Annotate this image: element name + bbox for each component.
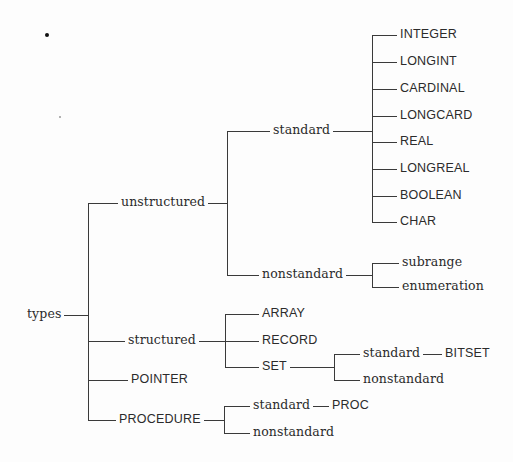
node-procedure-nonstandard: nonstandard — [250, 426, 337, 439]
node-array: ARRAY — [259, 307, 308, 320]
node-proc: PROC — [329, 399, 372, 412]
node-real: REAL — [397, 135, 436, 148]
node-cardinal: CARDINAL — [397, 82, 468, 95]
node-types: types — [24, 308, 64, 321]
node-subrange: subrange — [399, 256, 465, 269]
scan-speck — [45, 33, 49, 37]
node-integer: INTEGER — [397, 28, 460, 41]
node-unstructured: unstructured — [118, 196, 208, 209]
node-enumeration: enumeration — [399, 280, 487, 293]
node-longcard: LONGCARD — [397, 109, 475, 122]
node-boolean: BOOLEAN — [397, 189, 465, 202]
node-set-standard: standard — [360, 347, 423, 360]
node-longreal: LONGREAL — [397, 162, 473, 175]
node-unstructured-nonstandard: nonstandard — [259, 268, 346, 281]
node-structured: structured — [125, 334, 199, 347]
node-procedure: PROCEDURE — [116, 413, 204, 426]
node-pointer: POINTER — [128, 373, 191, 386]
node-procedure-standard: standard — [250, 399, 313, 412]
node-set-nonstandard: nonstandard — [360, 373, 447, 386]
node-char: CHAR — [397, 215, 439, 228]
node-unstructured-standard: standard — [270, 124, 333, 137]
type-hierarchy-diagram: types unstructured standard INTEGER LONG… — [0, 0, 513, 462]
scan-speck — [59, 116, 61, 118]
node-set: SET — [259, 360, 290, 373]
tree-connectors — [0, 0, 513, 462]
node-bitset: BITSET — [442, 347, 493, 360]
node-record: RECORD — [259, 334, 320, 347]
node-longint: LONGINT — [397, 55, 460, 68]
